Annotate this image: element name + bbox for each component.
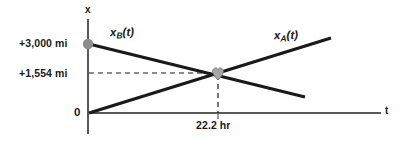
series-line-xa bbox=[89, 38, 331, 113]
y-tick-label-zero: 0 bbox=[74, 107, 81, 119]
y-tick-label-1554: +1,554 mi bbox=[19, 68, 67, 79]
y-axis-name: x bbox=[85, 5, 91, 15]
plot-area bbox=[0, 0, 404, 158]
t-tick-label-222: 22.2 hr bbox=[196, 120, 231, 131]
start-point-marker-xb bbox=[83, 39, 93, 49]
series-label-xb: xB(t) bbox=[110, 27, 134, 41]
series-label-xa: xA(t) bbox=[274, 30, 298, 44]
series-label-xb-arg: (t) bbox=[122, 26, 134, 38]
y-tick-label-3000: +3,000 mi bbox=[19, 38, 67, 49]
t-axis-name: t bbox=[385, 106, 388, 116]
series-line-xb bbox=[89, 44, 305, 97]
series-label-xa-arg: (t) bbox=[286, 29, 298, 41]
position-time-graph-figure: +3,000 mi +1,554 mi 0 x t xB(t) xA(t) 22… bbox=[0, 0, 404, 158]
